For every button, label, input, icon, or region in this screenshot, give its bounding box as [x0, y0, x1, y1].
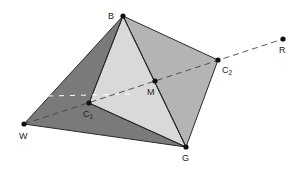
point-b: [120, 13, 125, 18]
point-g: [183, 144, 188, 149]
point-c2: [215, 57, 220, 62]
label-c2: C2: [222, 65, 233, 76]
point-m: [152, 78, 157, 83]
label-b: B: [108, 11, 114, 21]
label-w: W: [19, 131, 28, 141]
point-c1: [86, 100, 91, 105]
label-r: R: [279, 45, 286, 55]
label-m: M: [147, 87, 155, 97]
tetrahedron-diagram: B R C2 M C1 W G: [0, 0, 302, 170]
label-g: G: [182, 153, 189, 163]
point-r: [280, 36, 285, 41]
point-w: [21, 121, 26, 126]
